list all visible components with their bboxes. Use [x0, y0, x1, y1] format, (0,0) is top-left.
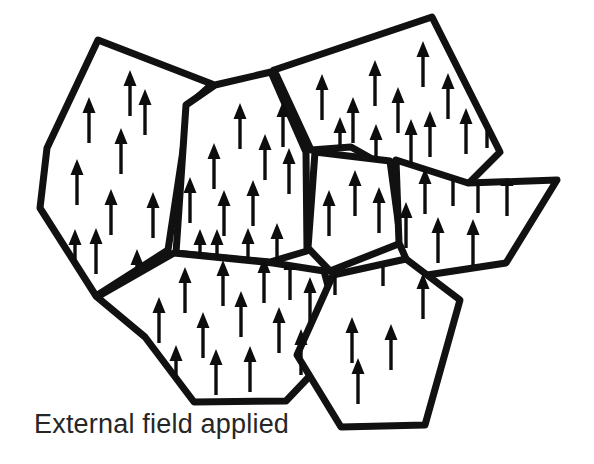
polycrystal-grain-diagram: External field applied [0, 0, 594, 464]
caption-label: External field applied [34, 409, 289, 439]
diagram-figure: External field applied [0, 0, 594, 464]
